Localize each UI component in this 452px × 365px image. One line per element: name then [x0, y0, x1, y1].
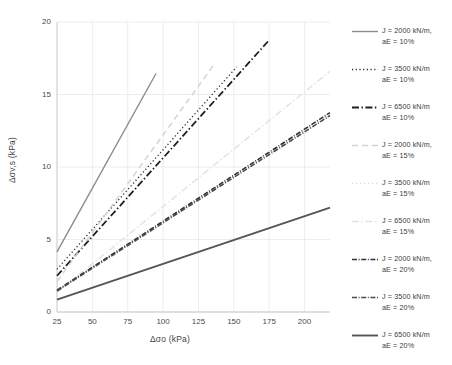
- legend-swatch-icon: [352, 292, 378, 303]
- legend-swatch-icon: [352, 140, 378, 151]
- series-line-6: [57, 113, 330, 291]
- chart-figure: 25507510012515017520005101520 Δσo (kPa) …: [0, 0, 452, 365]
- x-tick-label: 200: [290, 317, 320, 326]
- x-axis-label: Δσo (kPa): [0, 334, 340, 344]
- legend-swatch-icon: [352, 102, 378, 113]
- legend-swatch-icon: [352, 26, 378, 37]
- legend-item-3[interactable]: J = 2000 kN/m, aE = 15%: [352, 140, 452, 161]
- legend-item-7[interactable]: J = 3500 kN/m aE = 20%: [352, 292, 452, 313]
- legend-item-4[interactable]: J = 3500 kN/m aE = 15%: [352, 178, 452, 199]
- legend-item-1[interactable]: J = 3500 kN/m aE = 10%: [352, 64, 452, 85]
- x-tick-label: 125: [183, 317, 213, 326]
- legend-swatch-icon: [352, 254, 378, 265]
- legend-label: J = 3500 kN/m aE = 10%: [382, 64, 430, 85]
- data-series-layer: [57, 40, 330, 300]
- legend-item-2[interactable]: J = 6500 kN/m aE = 10%: [352, 102, 452, 123]
- x-tick-label: 100: [148, 317, 178, 326]
- x-tick-label: 150: [219, 317, 249, 326]
- legend-swatch-icon: [352, 178, 378, 189]
- series-line-1: [57, 67, 237, 269]
- legend-item-0[interactable]: J = 2000 kN/m, aE = 10%: [352, 26, 452, 47]
- legend-swatch-icon: [352, 216, 378, 227]
- y-tick-label: 5: [29, 235, 51, 244]
- y-tick-label: 0: [29, 307, 51, 316]
- series-line-8: [57, 208, 330, 300]
- legend-item-5[interactable]: J = 6500 kN/m aE = 15%: [352, 216, 452, 237]
- y-tick-label: 10: [29, 162, 51, 171]
- legend-label: J = 6500 kN/m aE = 20%: [382, 330, 430, 351]
- series-line-3: [57, 63, 215, 282]
- legend-label: J = 2000 kN/m, aE = 10%: [382, 26, 432, 47]
- legend-label: J = 6500 kN/m aE = 10%: [382, 102, 430, 123]
- series-line-7: [57, 116, 330, 291]
- chart-legend: J = 2000 kN/m, aE = 10%J = 3500 kN/m aE …: [352, 18, 452, 348]
- x-tick-label: 50: [77, 317, 107, 326]
- series-line-5: [57, 71, 330, 292]
- y-axis-label: Δσv,s (kPa): [7, 120, 17, 200]
- legend-item-8[interactable]: J = 6500 kN/m aE = 20%: [352, 330, 452, 351]
- legend-item-6[interactable]: J = 2000 kN/m, aE = 20%: [352, 254, 452, 275]
- y-tick-label: 15: [29, 90, 51, 99]
- legend-swatch-icon: [352, 64, 378, 75]
- legend-label: J = 2000 kN/m, aE = 15%: [382, 140, 432, 161]
- legend-label: J = 6500 kN/m aE = 15%: [382, 216, 430, 237]
- legend-swatch-icon: [352, 330, 378, 341]
- legend-label: J = 3500 kN/m aE = 15%: [382, 178, 430, 199]
- legend-label: J = 3500 kN/m aE = 20%: [382, 292, 430, 313]
- x-tick-label: 175: [254, 317, 284, 326]
- x-tick-label: 25: [42, 317, 72, 326]
- y-tick-label: 20: [29, 17, 51, 26]
- x-tick-label: 75: [113, 317, 143, 326]
- legend-label: J = 2000 kN/m, aE = 20%: [382, 254, 432, 275]
- gridlines: [57, 22, 330, 312]
